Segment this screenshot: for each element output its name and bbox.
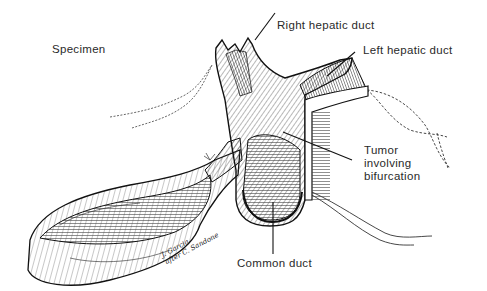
label-right-hepatic-duct: Right hepatic duct [277, 19, 374, 32]
suture-left [110, 65, 212, 128]
label-tumor-involving-bifurcation: Tumor involving bifurcation [364, 144, 420, 183]
anatomical-illustration: Specimen Right hepatic duct Left hepatic… [0, 0, 487, 291]
leader-right-hepatic-duct [255, 13, 275, 40]
label-left-hepatic-duct: Left hepatic duct [363, 44, 453, 57]
label-common-duct: Common duct [237, 257, 312, 270]
label-specimen: Specimen [52, 43, 106, 56]
bile-duct-trunk [216, 38, 368, 226]
